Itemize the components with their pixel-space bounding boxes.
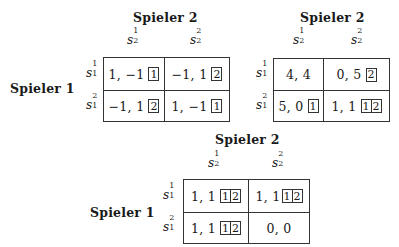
row-strategy-2: s21 xyxy=(163,220,175,234)
column-strategy-2: s22 xyxy=(190,33,202,47)
payoff-cell: 1, 1 12 xyxy=(324,91,389,121)
payoff-table: 1, −1 1 −1, 1 2 −1, 1 2 1, −1 1 xyxy=(103,57,230,122)
row-strategy-2: s21 xyxy=(256,98,268,112)
best-response-marker: 1 xyxy=(148,67,159,81)
row-strategy-1: s11 xyxy=(163,188,175,202)
best-response-marker: 1 xyxy=(361,99,372,113)
payoff-cell: 1, 1 12 xyxy=(184,213,248,243)
column-strategy-1: s12 xyxy=(293,33,305,47)
payoff-cell: 5, 0 1 xyxy=(274,91,323,121)
best-response-marker: 2 xyxy=(372,99,382,113)
best-response-marker: 1 xyxy=(308,99,319,113)
column-strategy-1: s12 xyxy=(208,156,220,170)
row-strategy-2: s21 xyxy=(86,98,98,112)
column-player-label: Spieler 2 xyxy=(300,10,365,25)
payoff-cell: 0, 0 xyxy=(249,213,309,243)
row-strategy-1: s11 xyxy=(86,66,98,80)
row-strategy-1: s11 xyxy=(256,66,268,80)
payoff-cell: 1, 1 12 xyxy=(249,180,309,212)
payoff-table: 1, 1 12 1, 1 12 1, 1 12 0, 0 xyxy=(183,179,310,244)
best-response-marker: 2 xyxy=(211,67,222,81)
payoff-cell: 1, −1 1 xyxy=(104,58,164,90)
payoff-cell: 4, 4 xyxy=(274,59,323,90)
payoff-table: 4, 4 0, 5 2 5, 0 1 1, 1 12 xyxy=(273,58,390,122)
best-response-marker: 1 xyxy=(282,189,293,203)
column-player-label: Spieler 2 xyxy=(215,132,280,147)
row-player-label: Spieler 1 xyxy=(90,205,155,220)
best-response-marker: 1 xyxy=(220,221,231,235)
best-response-marker: 2 xyxy=(231,189,241,203)
column-strategy-2: s22 xyxy=(272,156,284,170)
payoff-cell: 0, 5 2 xyxy=(324,59,389,90)
best-response-marker: 2 xyxy=(231,221,241,235)
best-response-marker: 1 xyxy=(220,189,231,203)
payoff-cell: 1, −1 1 xyxy=(165,91,229,121)
best-response-marker: 2 xyxy=(148,99,159,113)
best-response-marker: 2 xyxy=(293,189,303,203)
column-player-label: Spieler 2 xyxy=(133,10,198,25)
best-response-marker: 1 xyxy=(211,99,222,113)
payoff-cell: −1, 1 2 xyxy=(104,91,164,121)
payoff-cell: 1, 1 12 xyxy=(184,180,248,212)
row-player-label: Spieler 1 xyxy=(10,81,75,96)
column-strategy-1: s12 xyxy=(127,33,139,47)
column-strategy-2: s22 xyxy=(351,33,363,47)
payoff-cell: −1, 1 2 xyxy=(165,58,229,90)
best-response-marker: 2 xyxy=(366,68,377,82)
